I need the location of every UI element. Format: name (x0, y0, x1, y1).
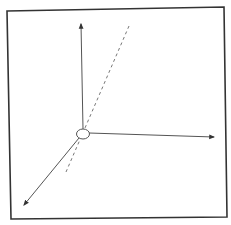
horizontal-axis (89, 133, 214, 137)
diagram-frame (7, 7, 227, 219)
dashed-line (66, 26, 129, 172)
diagram-canvas (0, 0, 231, 225)
origin-point (77, 129, 90, 139)
vertical-axis (81, 24, 83, 129)
axes-diagram (0, 0, 231, 225)
depth-axis (24, 138, 79, 205)
